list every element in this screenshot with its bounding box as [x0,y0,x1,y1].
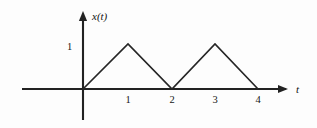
x-tick-label-3: 3 [212,95,217,106]
plot-svg [0,0,317,128]
x-axis-label: t [296,84,299,95]
x-tick-label-4: 4 [255,95,260,106]
figure-canvas: x(t) t 1 1 2 3 4 [0,0,317,128]
y-tick-label-1: 1 [67,42,72,53]
x-tick-label-2: 2 [169,95,174,106]
x-axis-arrowhead [278,85,288,93]
y-axis-arrowhead [79,11,87,21]
waveform-polyline [83,44,258,89]
y-axis-label: x(t) [92,11,107,22]
x-tick-label-1: 1 [125,95,130,106]
